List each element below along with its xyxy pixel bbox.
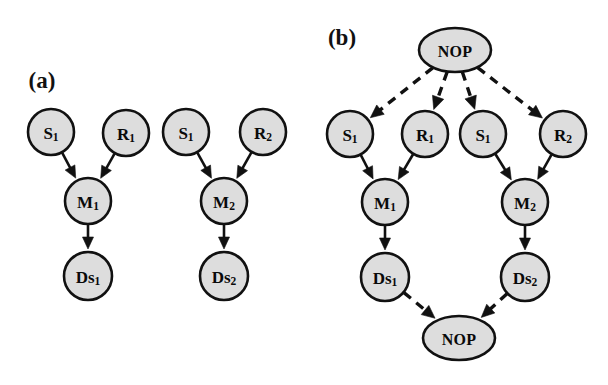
- node-b-m1[interactable]: M1: [362, 179, 408, 225]
- node-a-r1[interactable]: R1: [103, 110, 149, 156]
- node-b-s1-1[interactable]: S1: [327, 111, 373, 157]
- node-b-nop-bot[interactable]: NOP: [423, 316, 495, 360]
- figure-canvas: S1R1M1Ds1S1R2M2Ds2NOPS1R1S1R2M1M2Ds1Ds2N…: [0, 0, 608, 385]
- node-a-s1-1[interactable]: S1: [28, 109, 74, 155]
- node-label-b-nop-top: NOP: [438, 43, 473, 60]
- node-b-ds1[interactable]: Ds1: [361, 253, 409, 301]
- node-a-ds1[interactable]: Ds1: [64, 252, 112, 300]
- node-b-nop-top[interactable]: NOP: [419, 28, 491, 72]
- node-b-m2[interactable]: M2: [502, 179, 548, 225]
- node-a-m1[interactable]: M1: [65, 178, 111, 224]
- node-a-s1-2[interactable]: S1: [163, 109, 209, 155]
- node-b-r1[interactable]: R1: [402, 111, 448, 157]
- node-a-ds2[interactable]: Ds2: [200, 252, 248, 300]
- node-label-b-nop-bot: NOP: [442, 331, 477, 348]
- figure-root: S1R1M1Ds1S1R2M2Ds2NOPS1R1S1R2M1M2Ds1Ds2N…: [0, 0, 608, 385]
- node-b-ds2[interactable]: Ds2: [501, 253, 549, 301]
- node-a-m2[interactable]: M2: [201, 178, 247, 224]
- node-b-r2[interactable]: R2: [540, 111, 586, 157]
- node-a-r2[interactable]: R2: [240, 109, 286, 155]
- panel-label-b: (b): [328, 25, 356, 50]
- panel-label-a: (a): [29, 68, 56, 93]
- node-b-s1-2[interactable]: S1: [460, 111, 506, 157]
